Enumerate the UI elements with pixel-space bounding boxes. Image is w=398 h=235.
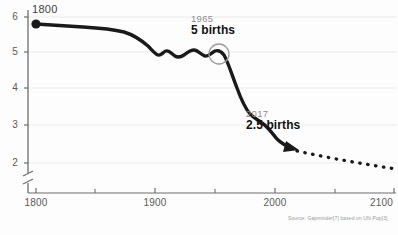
annotation-latest-value: 2.5 births <box>246 119 300 132</box>
series-line-projection <box>297 151 396 169</box>
x-tick-label-1800: 1800 <box>16 197 56 208</box>
x-axis <box>28 188 396 193</box>
gridlines <box>28 17 396 163</box>
y-tick-label-4: 4 <box>2 82 18 93</box>
y-tick-label-2: 2 <box>2 157 18 168</box>
y-tick-label-5: 5 <box>2 46 18 57</box>
annotation-latest-2017: 2017 2.5 births <box>246 108 300 132</box>
y-tick-label-3: 3 <box>2 119 18 130</box>
y-tick-label-6: 6 <box>2 11 18 22</box>
x-tick-label-2100: 2100 <box>365 197 398 208</box>
source-credit: Source: Gapminder[7] based on UN-Pop[3] <box>288 215 388 221</box>
y-axis <box>23 10 33 193</box>
start-point-label: 1800 <box>32 3 58 15</box>
annotation-peak-1965: 1965 5 births <box>191 13 235 37</box>
x-tick-label-2000: 2000 <box>255 197 295 208</box>
annotation-peak-value: 5 births <box>191 24 235 37</box>
fertility-rate-chart: 6 5 4 3 2 1800 1900 2000 2100 1800 1965 … <box>0 0 398 235</box>
start-point-marker <box>31 19 40 28</box>
x-tick-label-1900: 1900 <box>135 197 175 208</box>
